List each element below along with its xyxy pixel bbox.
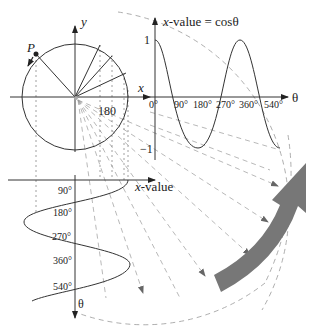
x-value-axis-label: x-value (134, 179, 173, 194)
y-tick-neg1: −1 (140, 142, 153, 156)
x-axis-label: x (137, 80, 144, 95)
theta-down-label: θ (78, 297, 84, 311)
cos-graph-title: x-value = cosθ (162, 14, 239, 29)
svg-text:90°: 90° (174, 99, 188, 110)
svg-text:180°: 180° (53, 207, 72, 218)
svg-text:270°: 270° (216, 99, 235, 110)
x-ticks: 0° 90° 180° 270° 360° 540° (149, 99, 283, 110)
rotated-cos-curve (24, 180, 130, 301)
svg-text:540°: 540° (53, 281, 72, 292)
svg-text:540°: 540° (264, 99, 283, 110)
cosine-diagram: y x P 180 x-value = cosθ θ 1 −1 0° 90° 1… (0, 0, 313, 328)
svg-text:0°: 0° (149, 99, 158, 110)
svg-text:360°: 360° (53, 255, 72, 266)
diagram-canvas: y x P 180 x-value = cosθ θ 1 −1 0° 90° 1… (0, 0, 313, 328)
theta-ticks: 90° 180° 270° 360° 540° (52, 185, 72, 292)
y-axis-label: y (79, 14, 87, 29)
svg-text:90°: 90° (58, 185, 72, 196)
cos-graph (150, 18, 288, 160)
svg-text:180°: 180° (193, 99, 212, 110)
svg-text:270°: 270° (52, 231, 71, 242)
point-p-label: P (26, 40, 35, 55)
rotation-guide-arcs (60, 12, 291, 325)
theta-axis-label: θ (292, 90, 298, 105)
rotation-arrow-icon (214, 163, 306, 292)
angle-180-label: 180 (98, 104, 116, 118)
y-tick-1: 1 (144, 33, 150, 47)
svg-text:360°: 360° (239, 99, 258, 110)
